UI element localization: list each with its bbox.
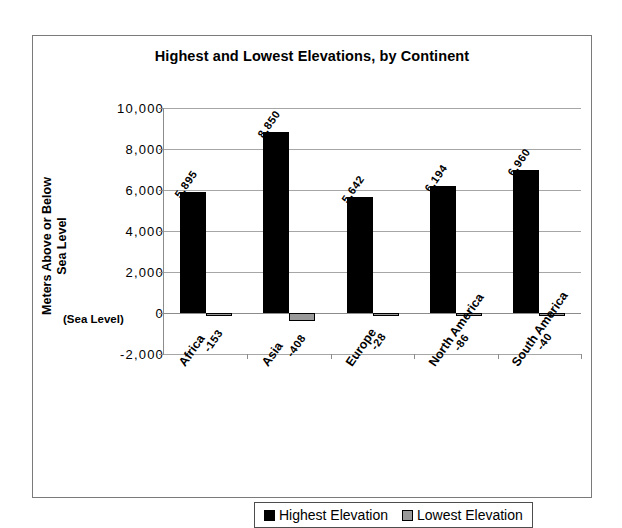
y-axis-tickmark <box>159 149 164 150</box>
x-axis-tickmark <box>581 354 582 359</box>
y-axis-tick-label: 2,000 <box>72 265 164 280</box>
y-axis-tickmark <box>159 354 164 355</box>
y-axis-tick-labels: 10,0008,0006,0004,0002,0000-2,000 <box>69 36 164 497</box>
x-axis-tickmark <box>331 354 332 359</box>
y-axis-tick-label: 4,000 <box>72 224 164 239</box>
y-axis-tick-label: 6,000 <box>72 183 164 198</box>
y-axis-tickmark <box>159 108 164 109</box>
bar-lowest-elevation[interactable] <box>373 313 399 316</box>
y-axis-tick-label: 8,000 <box>72 142 164 157</box>
y-axis-tick-label: 10,000 <box>72 101 164 116</box>
y-axis-tickmark <box>159 190 164 191</box>
y-axis-tickmark <box>159 231 164 232</box>
legend-swatch-icon <box>402 510 413 521</box>
sea-level-annotation: (Sea Level) <box>63 313 124 325</box>
bar-value-label-lowest: -408 <box>284 332 308 359</box>
bar-highest-elevation[interactable] <box>347 197 373 313</box>
x-axis-category-label: Africa <box>176 332 208 369</box>
x-axis-tickmark <box>414 354 415 359</box>
legend-item[interactable]: Highest Elevation <box>264 507 388 523</box>
legend-label: Highest Elevation <box>279 507 388 523</box>
legend-swatch-icon <box>264 510 275 521</box>
gridline <box>164 108 581 109</box>
y-axis-tick-label: -2,000 <box>72 347 164 362</box>
bar-highest-elevation[interactable] <box>180 192 206 313</box>
bar-highest-elevation[interactable] <box>263 132 289 313</box>
legend-item[interactable]: Lowest Elevation <box>402 507 523 523</box>
chart-legend: Highest ElevationLowest Elevation <box>254 502 533 528</box>
x-axis-tickmark <box>247 354 248 359</box>
bar-lowest-elevation[interactable] <box>289 313 315 321</box>
y-axis-tickmark <box>159 272 164 273</box>
bar-highest-elevation[interactable] <box>430 186 456 313</box>
plot-area: 5,895-153Africa8,850-408Asia5,642-28Euro… <box>164 108 581 354</box>
bar-highest-elevation[interactable] <box>513 170 539 313</box>
x-axis-tickmark <box>498 354 499 359</box>
y-axis-title-text: Meters Above or BelowSea Level <box>40 177 70 315</box>
y-axis-tickmark <box>159 313 164 314</box>
bar-lowest-elevation[interactable] <box>206 313 232 316</box>
legend-label: Lowest Elevation <box>417 507 523 523</box>
chart-frame: Highest and Lowest Elevations, by Contin… <box>32 35 592 498</box>
